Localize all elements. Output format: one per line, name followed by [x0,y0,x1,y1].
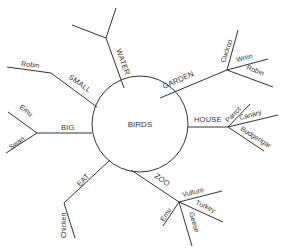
center-node: BIRDS [92,76,188,172]
branch-label-garden: GARDEN [161,69,195,91]
branch-big: BIG Emu Swan [6,103,92,153]
branch-label-big: BIG [61,123,75,132]
branch-garden: GARDEN Cuckoo Wren Robin [160,30,273,98]
leaf-turkey: Turkey [194,199,217,215]
branch-label-water: WATER [114,48,132,77]
mind-map: BIRDS WATER GARDEN Cuckoo Wren Robin HOU… [0,0,282,252]
center-label: BIRDS [128,120,152,129]
leaf-robin-small: Robin [21,60,40,69]
leaf-chicken: Chicken [60,213,67,238]
leaf-cuckoo: Cuckoo [219,38,233,63]
branch-eat: EAT Chicken [60,160,110,238]
branch-house: HOUSE Parrot Canary Budgerigar [188,104,278,151]
branch-zoo: ZOO Vulture Turkey Geese Emu [131,170,223,246]
branch-water: WATER [72,8,132,88]
leaf-robin-garden: Robin [246,63,266,76]
branch-label-house: HOUSE [194,115,222,124]
leaf-swan: Swan [7,135,25,151]
leaf-emu-big: Emu [18,103,34,117]
leaf-geese: Geese [188,211,201,233]
branch-small: SMALL Robin [7,60,97,107]
branch-label-eat: EAT [75,171,92,188]
leaf-wren: Wren [236,52,254,63]
branch-label-small: SMALL [67,72,93,94]
